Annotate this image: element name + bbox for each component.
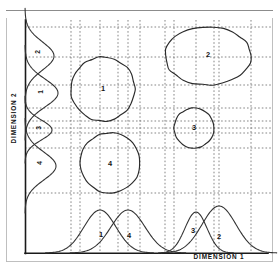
cluster-projection-figure: 123414322134 DIMENSION 1 DIMENSION 2	[0, 0, 279, 271]
y-marginal-density-curves	[25, 8, 58, 213]
x-density-label-4: 4	[127, 231, 132, 240]
figure-labels: 123414322134	[34, 50, 221, 241]
plot-axes	[25, 20, 268, 254]
cluster-3-label: 3	[192, 123, 196, 132]
y-density-curve-2	[25, 8, 54, 103]
x-density-label-3: 3	[191, 226, 195, 235]
cluster-4-label: 4	[108, 159, 113, 168]
y-density-label-3: 3	[35, 126, 42, 130]
figure-frame	[6, 11, 273, 263]
y-density-label-4: 4	[36, 161, 43, 165]
cluster-2-label: 2	[206, 50, 210, 59]
figure-root: 123414322134 DIMENSION 1 DIMENSION 2	[0, 0, 279, 271]
x-axis-title: DIMENSION 1	[194, 253, 245, 260]
cluster-shapes	[71, 27, 251, 193]
x-density-label-1: 1	[99, 230, 103, 239]
y-density-label-1: 1	[37, 90, 44, 94]
x-density-label-2: 2	[217, 232, 221, 241]
projection-gridlines	[25, 20, 272, 253]
y-density-label-2: 2	[34, 50, 41, 54]
cluster-1-label: 1	[101, 84, 105, 93]
y-axis-title: DIMENSION 2	[10, 93, 17, 144]
